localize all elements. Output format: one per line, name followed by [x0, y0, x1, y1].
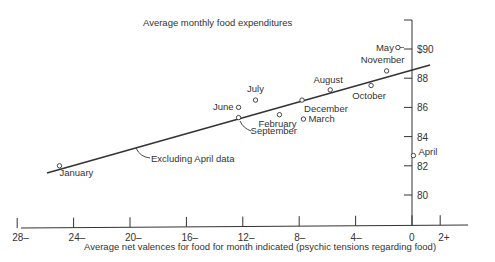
point-label-april: April [418, 146, 437, 157]
data-point-november [384, 69, 388, 73]
annotation-excluding-april: Excluding April data [151, 153, 235, 164]
x-tick-label: 28– [12, 232, 29, 243]
data-point-july [253, 98, 257, 102]
annotation-arrow-september [240, 121, 251, 131]
point-label-july: July [247, 83, 264, 94]
x-tick-label: 2+ [438, 232, 450, 243]
data-point-may [396, 45, 400, 49]
y-tick-label: 86 [417, 102, 429, 113]
annotation-arrow-excluding-april [136, 148, 150, 158]
y-tick-label: $90 [417, 44, 434, 55]
y-tick-label: 88 [417, 73, 429, 84]
data-point-september [236, 115, 240, 119]
chart-title: Average monthly food expenditures [143, 17, 293, 28]
data-point-october [369, 83, 373, 87]
x-axis-ticks: 28–24–20–16–12–8–4–02+ [12, 215, 450, 243]
chart-canvas: Average monthly food expenditures $90888… [0, 0, 495, 262]
data-point-june [236, 105, 240, 109]
point-label-january: January [60, 167, 94, 178]
point-label-october: October [352, 90, 386, 101]
point-label-march: March [308, 113, 334, 124]
x-axis [21, 225, 468, 228]
y-tick-label: 80 [417, 190, 429, 201]
data-point-august [328, 88, 332, 92]
point-label-august: August [313, 74, 343, 85]
data-points: MayNovemberOctoberAugustDecemberMarchFeb… [57, 42, 437, 178]
y-tick-label: 82 [417, 161, 429, 172]
point-label-may: May [376, 42, 394, 53]
x-axis-label: Average net valences for food for month … [84, 241, 436, 252]
data-point-april [411, 153, 415, 157]
point-label-june: June [213, 101, 234, 112]
point-label-september: September [251, 125, 297, 136]
data-point-february [277, 113, 281, 117]
data-point-december [300, 98, 304, 102]
point-label-november: November [361, 54, 405, 65]
y-tick-label: 84 [417, 132, 429, 143]
data-point-march [301, 117, 305, 121]
